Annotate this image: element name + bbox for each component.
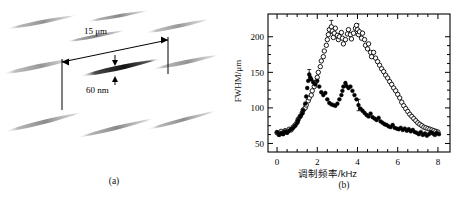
data-point-open [398,96,402,100]
data-point-filled [353,93,357,97]
data-point-open [310,89,314,93]
data-point-filled [351,89,355,93]
panel-b-chart: 02468 50100150200 调制频率/kHz FWHM/μm (b) [228,0,460,200]
data-point-filled [340,93,344,97]
y-tick-label: 100 [251,103,265,113]
data-point-open [325,37,329,41]
data-point-filled [301,108,305,112]
panel-a-nanowire-schematic: 15 μm 60 nm (a) [0,0,228,200]
panel-b-caption: (b) [228,180,460,190]
data-point-filled [315,79,319,83]
data-point-open [324,43,328,47]
nanowire [85,9,151,24]
figure-root: 15 μm 60 nm (a) 02468 50100150200 调制频率/k… [0,0,460,200]
nanowire [3,110,86,134]
data-point-open [322,49,326,53]
data-point-open [339,30,343,34]
data-point-open [341,42,345,46]
data-point-filled [325,97,329,101]
y-tick-label: 200 [251,32,265,42]
diameter-dimension-label: 60 nm [86,85,109,95]
data-point-open [362,37,366,41]
data-point-open [346,27,350,31]
nanowire-canvas [0,0,228,172]
y-tick-label: 50 [255,139,265,149]
data-point-filled [313,83,317,87]
y-tick-labels: 50100150200 [251,32,265,149]
data-point-open [326,32,330,36]
nanowire-group [0,9,221,140]
data-point-filled [355,97,359,101]
length-dimension-label: 15 μm [84,26,107,36]
data-point-open [371,50,375,54]
nanowire [75,116,157,140]
data-point-filled [369,112,373,116]
y-tick-label: 150 [251,68,265,78]
data-point-filled [335,102,339,106]
data-point-open [360,31,364,35]
data-point-open [319,59,323,63]
data-point-filled [300,112,304,116]
data-point-filled [296,118,300,122]
x-tick-label: 0 [275,157,280,167]
data-point-open [351,31,355,35]
x-tick-label: 8 [436,157,441,167]
data-point-filled [349,85,353,89]
dimension-annotation-group [62,37,168,111]
data-point-filled [357,103,361,107]
data-point-filled [337,97,341,101]
nanowire [0,55,79,76]
nanowire [4,13,79,31]
series-filled-circles [275,73,441,138]
data-point-filled [323,91,327,95]
nanowire [150,52,221,71]
data-point-open [354,23,358,27]
x-axis-label: 调制频率/kHz [298,166,357,180]
data-point-filled [317,85,321,89]
data-point-filled [377,116,381,120]
data-point-filled [341,89,345,93]
panel-a-caption: (a) [0,176,228,186]
data-point-open [321,54,325,58]
data-point-open [316,70,320,74]
data-point-filled [303,102,307,106]
nanowire [145,108,219,131]
data-point-open [333,26,337,30]
data-point-filled [304,95,308,99]
data-point-open [343,37,347,41]
data-point-filled [305,86,309,90]
data-point-open [318,64,322,68]
x-tick-label: 6 [395,157,400,167]
data-point-open [309,93,313,97]
data-point-filled [437,132,441,136]
data-point-open [349,37,353,41]
data-point-open [366,42,370,46]
nanowire [143,17,212,35]
y-axis-label: FWHM/μm [233,49,243,113]
